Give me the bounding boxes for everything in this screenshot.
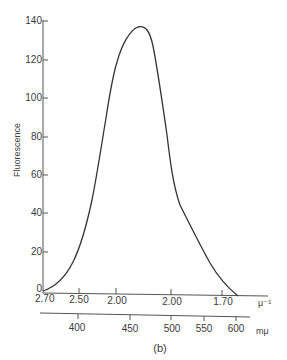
fluorescence-curve: [43, 27, 238, 296]
svg-text:100: 100: [25, 92, 42, 103]
fluorescence-chart: 140 120 100 80 60 40 20 0 Fluorescence 2…: [0, 0, 287, 360]
svg-text:2.00: 2.00: [162, 296, 182, 307]
svg-text:80: 80: [31, 131, 43, 142]
y-ticks: [43, 21, 48, 252]
x-axis-secondary-unit: mμ: [256, 326, 269, 336]
x-axis-primary-unit: μ⁻¹: [258, 298, 271, 308]
y-axis-title: Fluorescence: [12, 123, 22, 177]
svg-text:1.70: 1.70: [213, 296, 233, 307]
y-tick-labels: 140 120 100 80 60 40 20 0: [25, 15, 42, 294]
svg-text:60: 60: [31, 169, 43, 180]
svg-text:2.70: 2.70: [35, 293, 55, 304]
svg-text:140: 140: [25, 15, 42, 26]
svg-text:2.00: 2.00: [107, 295, 127, 306]
svg-text:550: 550: [196, 323, 213, 334]
svg-text:20: 20: [31, 246, 43, 257]
figure-caption: (b): [153, 342, 166, 354]
svg-text:120: 120: [25, 54, 42, 65]
x-tick-labels-secondary: 400 450 500 550 600: [69, 322, 245, 334]
svg-text:450: 450: [122, 323, 139, 334]
x-axis-secondary: [40, 313, 250, 317]
svg-text:40: 40: [31, 207, 43, 218]
svg-text:400: 400: [69, 322, 86, 333]
svg-text:600: 600: [228, 323, 245, 334]
svg-text:2.50: 2.50: [69, 294, 89, 305]
svg-text:500: 500: [164, 323, 181, 334]
